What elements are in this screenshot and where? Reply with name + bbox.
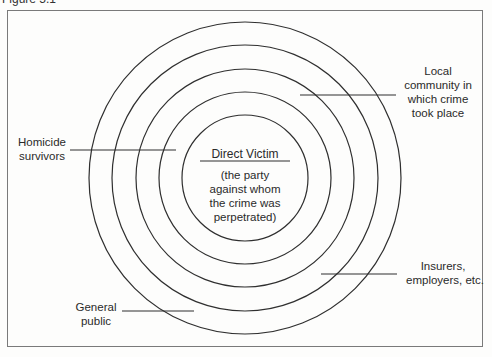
label-line: Insurers, [388, 259, 484, 273]
label-line: Homicide [12, 135, 72, 149]
description-line: against whom [196, 182, 294, 196]
description-line: the crime was [196, 196, 294, 210]
label-general-public: General public [70, 300, 122, 328]
label-line: survivors [12, 149, 72, 163]
description-line: (the party [196, 168, 294, 182]
description-line: perpetrated) [196, 210, 294, 224]
label-insurers-employers: Insurers, employers, etc. [388, 259, 484, 287]
label-line: Local [398, 64, 478, 78]
label-line: General [70, 300, 122, 314]
label-homicide-survivors: Homicide survivors [12, 135, 72, 163]
label-line: which crime [398, 92, 478, 106]
label-local-community: Local community in which crime took plac… [398, 64, 478, 120]
label-line: employers, etc. [388, 273, 484, 287]
label-line: community in [398, 78, 478, 92]
direct-victim-title: Direct Victim [208, 147, 282, 161]
label-line: took place [398, 106, 478, 120]
label-line: public [70, 314, 122, 328]
direct-victim-description: (the party against whom the crime was pe… [196, 168, 294, 224]
